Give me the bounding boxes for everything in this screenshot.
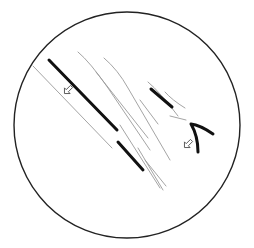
diagram-canvas <box>0 0 254 248</box>
faint-stroke-faint-2 <box>104 58 170 160</box>
arrow-right-icon <box>182 138 195 151</box>
sketch-svg <box>0 0 254 248</box>
bold-stroke-main-diagonal <box>49 60 117 130</box>
faint-stroke-faint-5 <box>140 100 158 124</box>
faint-stroke-left-parallel <box>33 66 112 148</box>
faint-stroke-faint-9 <box>165 92 185 108</box>
faint-stroke-faint-8 <box>145 160 166 186</box>
field-of-view-circle <box>14 12 240 238</box>
faint-stroke-faint-10 <box>170 116 186 120</box>
bold-stroke-chevron <box>191 124 213 152</box>
bold-stroke-upper-right-segment <box>151 89 172 107</box>
